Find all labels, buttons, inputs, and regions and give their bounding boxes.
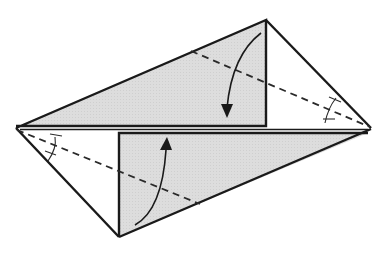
origami-fold-diagram: [0, 0, 382, 256]
lower-flap: [119, 129, 371, 237]
angle-mark-right: [323, 97, 341, 123]
angle-mark-left: [45, 134, 62, 161]
right-paper-edge: [266, 20, 371, 128]
left-paper-edge: [16, 128, 119, 237]
